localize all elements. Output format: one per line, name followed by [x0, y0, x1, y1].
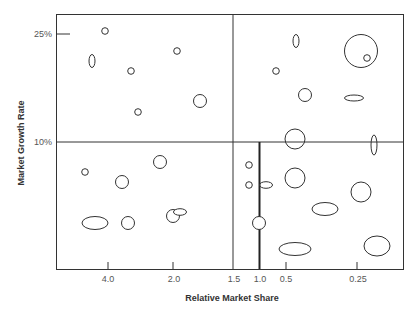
y-tick-label-25: 25%: [34, 29, 52, 39]
bubble: [273, 68, 280, 75]
y-tick-label-10: 10%: [34, 137, 52, 147]
bubble: [174, 209, 187, 216]
bubble: [285, 129, 305, 149]
bubble: [293, 35, 299, 48]
bcg-matrix-chart: 25% 10% 4.0 2.0 1.5 1.0 0.5 0.25 Relativ…: [0, 0, 418, 316]
bubble: [89, 55, 95, 68]
bubble: [364, 55, 371, 62]
bubble: [345, 95, 364, 101]
bubble: [299, 89, 312, 102]
bubble: [371, 135, 377, 155]
x-tick-label-2: 2.0: [168, 274, 181, 284]
bubble: [364, 236, 390, 256]
bubble: [312, 203, 338, 216]
y-axis-title: Market Growth Rate: [16, 100, 26, 185]
x-tick-label-1: 1.0: [254, 274, 267, 284]
bubble: [253, 217, 266, 230]
x-tick-label-05: 0.5: [280, 274, 293, 284]
bubble: [82, 169, 89, 176]
bubble: [279, 243, 311, 256]
bubble: [128, 68, 135, 75]
bubble: [345, 35, 378, 68]
bubble: [194, 95, 207, 108]
bubble: [135, 109, 142, 116]
x-axis-title: Relative Market Share: [185, 293, 279, 303]
bubble: [246, 162, 253, 169]
bubble: [82, 217, 108, 230]
bubble: [285, 168, 305, 188]
bubble: [102, 28, 109, 35]
x-tick-label-4: 4.0: [102, 274, 115, 284]
bubble: [122, 217, 135, 230]
bubble: [116, 176, 129, 189]
x-tick-label-025: 0.25: [349, 274, 367, 284]
bubble: [351, 182, 371, 202]
bubble: [154, 156, 167, 169]
bubble: [174, 48, 181, 55]
bubble: [260, 182, 273, 189]
x-tick-label-15: 1.5: [228, 274, 241, 284]
bubble: [246, 182, 253, 189]
